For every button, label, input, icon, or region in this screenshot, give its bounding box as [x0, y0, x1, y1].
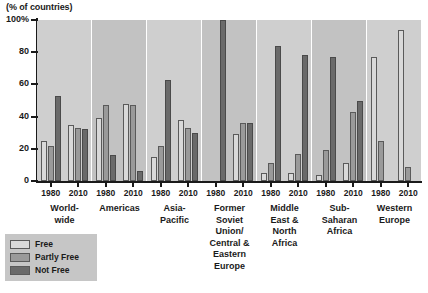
bar-not-free	[247, 123, 253, 181]
bar-free	[123, 104, 129, 181]
bar-not-free	[220, 20, 226, 181]
bar-free	[288, 173, 294, 181]
y-axis-tick	[31, 180, 38, 182]
legend-item-notfree: Not Free	[10, 264, 93, 276]
bar-not-free	[55, 96, 61, 181]
bar-not-free	[82, 129, 88, 181]
legend-swatch-free-icon	[10, 240, 30, 249]
x-axis-tick	[187, 183, 189, 187]
bar-partly-free	[295, 154, 301, 181]
chart-legend: FreePartly FreeNot Free	[5, 234, 97, 281]
y-axis-tick-label: 60	[19, 78, 29, 88]
y-axis-tick-label: 20	[19, 143, 29, 153]
x-axis-group-label: Western Europe	[362, 203, 427, 226]
bar-partly-free	[323, 150, 329, 181]
x-axis-tick	[325, 183, 327, 187]
bar-free	[371, 57, 377, 181]
y-axis-tick-label: 80	[19, 46, 29, 56]
bar-not-free	[357, 101, 363, 182]
x-axis-tick	[407, 183, 409, 187]
bar-not-free	[137, 171, 143, 181]
y-axis-tick-label: 40	[19, 111, 29, 121]
bar-free	[151, 157, 157, 181]
y-axis-tick	[31, 51, 38, 53]
y-axis-tick-label: 100%	[6, 14, 29, 24]
bar-partly-free	[378, 141, 384, 181]
bar-partly-free	[405, 167, 411, 181]
bar-free	[68, 125, 74, 181]
bar-free	[316, 175, 322, 181]
bar-partly-free	[48, 146, 54, 181]
bar-free	[96, 118, 102, 181]
bar-not-free	[165, 80, 171, 181]
bar-not-free	[302, 55, 308, 181]
x-axis-tick	[132, 183, 134, 187]
bar-free	[343, 163, 349, 181]
x-axis-tick	[297, 183, 299, 187]
bar-free	[233, 134, 239, 181]
x-axis-line	[36, 181, 422, 183]
bar-partly-free	[75, 128, 81, 181]
x-axis-tick	[160, 183, 162, 187]
y-axis-tick	[31, 83, 38, 85]
bar-not-free	[275, 46, 281, 181]
x-axis-tick	[215, 183, 217, 187]
bar-not-free	[110, 155, 116, 181]
bar-partly-free	[103, 105, 109, 181]
y-axis-tick	[31, 19, 38, 21]
x-axis-tick	[50, 183, 52, 187]
legend-swatch-notfree-icon	[10, 266, 30, 275]
legend-label: Free	[35, 239, 53, 249]
bar-free	[261, 173, 267, 181]
bar-not-free	[330, 57, 336, 181]
legend-label: Not Free	[35, 265, 69, 275]
legend-item-partly: Partly Free	[10, 251, 93, 263]
bar-partly-free	[158, 146, 164, 181]
y-axis-tick	[31, 148, 38, 150]
bar-partly-free	[240, 123, 246, 181]
bar-partly-free	[130, 105, 136, 181]
legend-label: Partly Free	[35, 252, 79, 262]
legend-swatch-partly-icon	[10, 253, 30, 262]
y-axis-tick	[31, 116, 38, 118]
x-axis-tick	[352, 183, 354, 187]
bar-partly-free	[268, 163, 274, 181]
plot-area	[37, 20, 422, 181]
legend-item-free: Free	[10, 238, 93, 250]
x-axis-tick	[105, 183, 107, 187]
bar-partly-free	[350, 112, 356, 181]
bar-not-free	[192, 133, 198, 181]
bar-free	[41, 141, 47, 181]
bar-free	[398, 30, 404, 181]
chart-canvas: (% of countries) 020406080100% FreePartl…	[0, 0, 428, 293]
x-axis-year-label: 2010	[392, 188, 424, 198]
bar-partly-free	[185, 128, 191, 181]
y-axis-tick-label: 0	[24, 175, 29, 185]
x-axis-tick	[242, 183, 244, 187]
x-axis-tick	[270, 183, 272, 187]
x-axis-tick	[380, 183, 382, 187]
bar-free	[178, 120, 184, 181]
x-axis-tick	[77, 183, 79, 187]
